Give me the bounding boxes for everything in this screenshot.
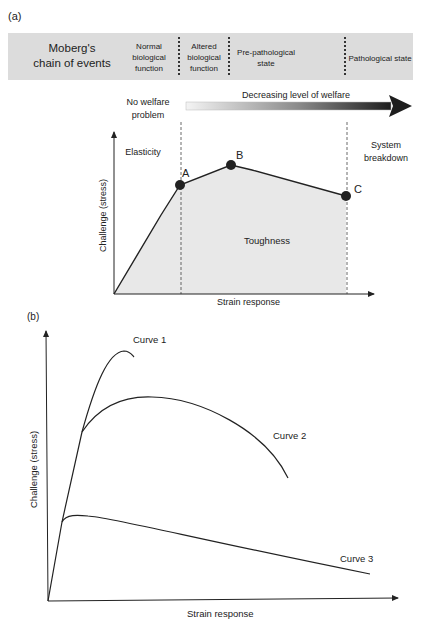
curve-2-line (82, 397, 288, 478)
figure-canvas: A B C Toughness Strain response Challeng… (0, 0, 428, 631)
curve-3-line (62, 515, 370, 574)
panel-b-label: (b) (27, 311, 39, 322)
curve-1-line (48, 351, 134, 601)
panel-a-xlabel: Strain response (217, 297, 280, 307)
point-c-marker (341, 191, 351, 201)
panel-a-ylabel: Challenge (stress) (98, 179, 108, 252)
welfare-gradient-arrow (186, 95, 412, 117)
curve-3-label: Curve 3 (340, 553, 373, 564)
point-a-label: A (182, 167, 190, 179)
curve-2-label: Curve 2 (273, 430, 306, 441)
panel-b-ylabel: Challenge (stress) (28, 431, 39, 508)
toughness-label: Toughness (244, 235, 290, 246)
panel-b-xlabel: Strain response (187, 608, 254, 619)
point-a-marker (175, 180, 185, 190)
point-c-label: C (354, 183, 362, 195)
curve-1-label: Curve 1 (133, 334, 166, 345)
panel-a-chart (114, 122, 374, 294)
point-b-marker (226, 160, 236, 170)
point-b-label: B (236, 149, 243, 161)
